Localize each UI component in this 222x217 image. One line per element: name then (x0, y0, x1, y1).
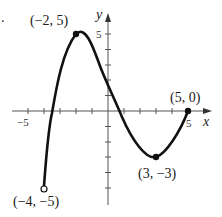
point-start-open (41, 186, 47, 192)
point-min (153, 154, 159, 160)
stray-mark: . (1, 10, 5, 25)
x-tick-label-5: 5 (186, 117, 192, 129)
x-axis-label: x (202, 114, 210, 129)
label-point-start: (−4, −5) (13, 194, 59, 210)
point-end (185, 108, 191, 114)
label-point-min: (3, −3) (138, 166, 177, 182)
x-axis (12, 108, 207, 114)
function-graph: . −5 5 5 x y (0, 0, 222, 217)
y-tick-label-5: 5 (96, 28, 102, 40)
y-axis-arrow-icon (105, 13, 111, 22)
x-tick-label-neg5: −5 (17, 116, 29, 128)
label-point-max: (−2, 5) (30, 13, 69, 29)
label-point-end: (5, 0) (170, 90, 201, 106)
y-axis-label: y (94, 7, 103, 22)
function-curve (44, 32, 188, 186)
point-max (73, 31, 79, 37)
